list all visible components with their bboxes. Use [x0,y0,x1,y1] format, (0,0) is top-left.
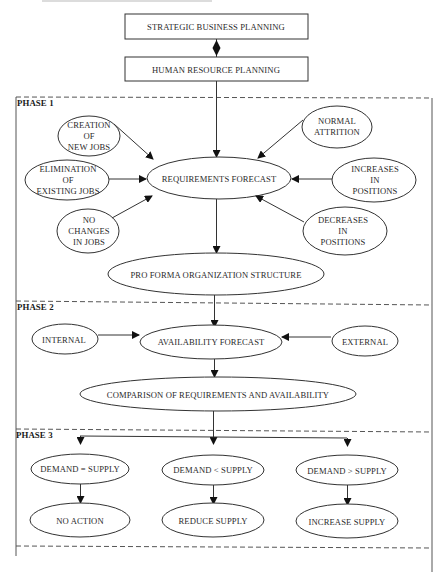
label-human-resource-planning: HUMAN RESOURCE PLANNING [152,65,280,76]
label-pro-forma-organization-structure: PRO FORMA ORGANIZATION STRUCTURE [130,270,301,281]
phase3-branch-arrows [80,411,348,446]
label-demand-less-than-supply: DEMAND < SUPPLY [173,465,253,476]
label-reduce-supply: REDUCE SUPPLY [179,516,248,527]
label-no-changes-in-jobs: NO CHANGES IN JOBS [68,215,109,248]
label-elimination-of-existing-jobs: ELIMINATION OF EXISTING JOBS [36,164,99,197]
phase-1-label: PHASE 1 [17,98,54,108]
label-availability-forecast: AVAILABILITY FORECAST [158,337,265,348]
label-requirements-forecast: REQUIREMENTS FORECAST [162,174,277,185]
label-demand-greater-than-supply: DEMAND > SUPPLY [307,466,387,477]
label-external: EXTERNAL [342,337,388,348]
label-no-action: NO ACTION [56,516,103,527]
phase3-action-arrows [81,484,348,505]
hr-planning-diagram: STRATEGIC BUSINESS PLANNING HUMAN RESOUR… [0,0,442,572]
double-diamond-connector [213,39,221,57]
title-remnant [42,0,212,2]
label-comparison-of-requirements-and-availability: COMPARISON OF REQUIREMENTS AND AVAILABIL… [107,390,329,401]
label-strategic-business-planning: STRATEGIC BUSINESS PLANNING [147,22,285,33]
label-creation-of-new-jobs: CREATION OF NEW JOBS [67,120,110,153]
label-increase-supply: INCREASE SUPPLY [309,517,386,528]
diagram-svg [0,0,442,572]
phase-2-label: PHASE 2 [17,302,54,312]
label-increases-in-positions: INCREASES IN POSITIONS [351,164,399,197]
label-internal: INTERNAL [42,335,86,346]
phase-3-label: PHASE 3 [16,430,53,440]
label-normal-attrition: NORMAL ATTRITION [314,116,360,138]
label-demand-equals-supply: DEMAND = SUPPLY [40,464,120,475]
label-decreases-in-positions: DECREASES IN POSITIONS [318,215,368,248]
